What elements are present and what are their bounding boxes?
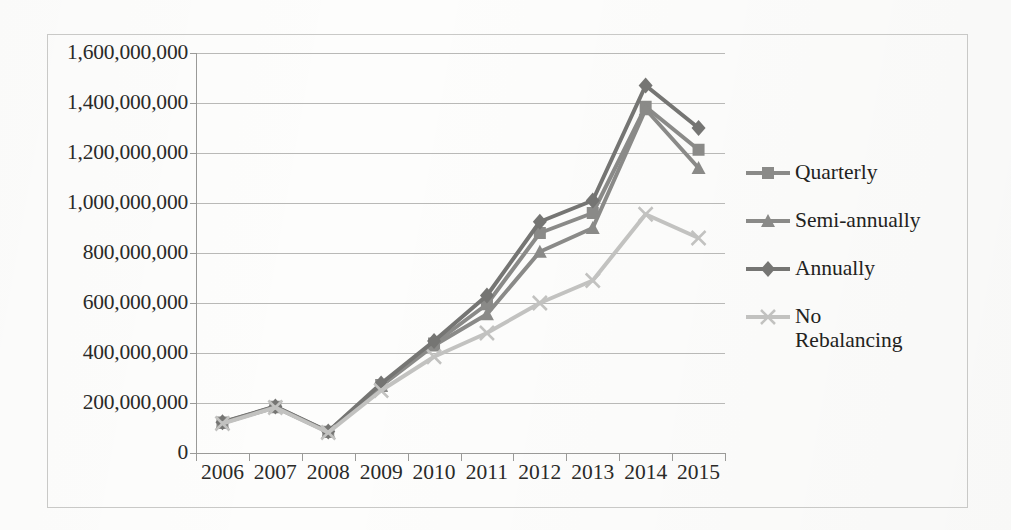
y-axis-tick-label: 800,000,000: [83, 242, 188, 264]
chart-legend: QuarterlySemi-annuallyAnnuallyNo Rebalan…: [744, 160, 959, 376]
y-axis-tick-label: 1,000,000,000: [67, 192, 188, 214]
legend-diamond-marker-icon: [744, 259, 792, 279]
y-axis-tick-label: 600,000,000: [83, 292, 188, 314]
series-semi-annually: [215, 102, 705, 438]
x-axis-tick: [302, 453, 303, 461]
legend-triangle-marker-icon: [744, 211, 792, 231]
x-axis-tick: [196, 453, 197, 461]
data-point-marker: [480, 326, 494, 340]
x-axis-tick-label: 2012: [510, 462, 570, 484]
x-axis-tick: [619, 453, 620, 461]
x-axis-tick-label: 2007: [245, 462, 305, 484]
series-quarterly: [216, 101, 704, 438]
series-line: [222, 86, 698, 432]
x-axis-tick-label: 2011: [457, 462, 517, 484]
x-axis-tick: [249, 453, 250, 461]
legend-item-label: No Rebalancing: [795, 304, 902, 352]
x-axis-tick: [408, 453, 409, 461]
x-axis-tick: [672, 453, 673, 461]
y-axis-tick-label: 1,400,000,000: [67, 92, 188, 114]
x-axis-tick-label: 2009: [351, 462, 411, 484]
data-point-marker: [692, 231, 706, 245]
x-axis-tick-label: 2010: [404, 462, 464, 484]
legend-square-marker-icon: [744, 163, 792, 183]
x-axis-tick-label: 2006: [192, 462, 252, 484]
x-axis-tick-label: 2015: [669, 462, 729, 484]
legend-item-label: Annually: [795, 256, 875, 280]
x-axis-tick: [461, 453, 462, 461]
data-point-marker: [639, 207, 653, 221]
data-point-marker: [427, 350, 441, 364]
y-axis-tick-label: 1,600,000,000: [67, 42, 188, 64]
data-point-marker: [693, 144, 705, 156]
x-axis-tick-label: 2008: [298, 462, 358, 484]
y-axis-labels: 0200,000,000400,000,000600,000,000800,00…: [52, 0, 188, 530]
legend-item-label: Semi-annually: [795, 208, 920, 232]
y-axis-tick-label: 0: [177, 442, 188, 464]
legend-item-annually[interactable]: Annually: [744, 256, 959, 280]
y-axis-tick-label: 1,200,000,000: [67, 142, 188, 164]
legend-item-no-rebalancing[interactable]: No Rebalancing: [744, 304, 959, 352]
series-layer: [196, 53, 725, 453]
y-axis-tick-label: 200,000,000: [83, 392, 188, 414]
data-point-marker: [586, 221, 600, 234]
x-axis-tick: [566, 453, 567, 461]
x-axis-tick-label: 2014: [616, 462, 676, 484]
chart-screenshot: 0200,000,000400,000,000600,000,000800,00…: [0, 0, 1011, 530]
series-line: [222, 109, 698, 432]
legend-item-semi-annually[interactable]: Semi-annually: [744, 208, 959, 232]
y-axis-tick-label: 400,000,000: [83, 342, 188, 364]
x-axis-tick-label: 2013: [563, 462, 623, 484]
x-axis-tick: [513, 453, 514, 461]
legend-item-quarterly[interactable]: Quarterly: [744, 160, 959, 184]
x-axis-tick: [355, 453, 356, 461]
legend-item-label: Quarterly: [795, 160, 877, 184]
legend-x-marker-icon: [744, 307, 792, 327]
x-axis-tick: [725, 453, 726, 461]
